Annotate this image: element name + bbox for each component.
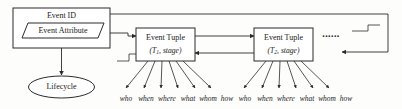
event-tuple-2-sub-tail: , stage): [277, 46, 300, 55]
label-when-1: when: [138, 94, 154, 103]
label-how-2: how: [340, 94, 352, 103]
connector-jog-right: [352, 25, 380, 31]
fan1-arrow-who: [126, 61, 148, 88]
label-when-2: when: [257, 94, 273, 103]
diagram-svg: Event ID Event Attribute Lifecycle Event…: [0, 0, 402, 109]
fan2-arrow-whom: [294, 61, 313, 88]
fan2-arrow-when: [262, 61, 273, 88]
label-who-2: who: [239, 94, 252, 103]
attribute-labels-group-2: who when where what whom how: [239, 94, 352, 103]
fan2-arrow-how: [301, 61, 329, 88]
label-what-1: what: [181, 94, 196, 103]
fan1-arrow-what: [169, 61, 178, 88]
event-id-label: Event ID: [47, 11, 76, 20]
label-where-2: where: [277, 94, 296, 103]
lifecycle-label: Lifecycle: [46, 82, 77, 91]
fan1-arrow-when: [144, 61, 155, 88]
label-where-1: where: [158, 94, 177, 103]
fan2-arrow-what: [287, 61, 296, 88]
event-tuple-2-sublabel: (T2, stage): [268, 46, 300, 56]
event-attribute-label: Event Attribute: [38, 26, 88, 35]
attribute-labels-group-1: who when where what whom how: [120, 94, 233, 103]
event-tuple-1-sub-tail: , stage): [159, 46, 182, 55]
label-what-2: what: [300, 94, 315, 103]
label-whom-1: whom: [199, 94, 217, 103]
fan1-arrow-where: [161, 61, 162, 88]
event-tuple-1-sublabel: (T1, stage): [150, 46, 182, 56]
fan2-arrow-where: [279, 61, 280, 88]
diagram-canvas: Event ID Event Attribute Lifecycle Event…: [0, 0, 402, 109]
fan1-arrow-whom: [176, 61, 195, 88]
label-how-1: how: [221, 94, 233, 103]
connector-attribute-to-tuple1: [110, 33, 136, 36]
continuation-ellipsis: ......: [322, 28, 339, 39]
fan1-arrow-how: [183, 61, 211, 88]
event-tuple-2-label: Event Tuple: [264, 33, 303, 42]
label-whom-2: whom: [318, 94, 336, 103]
fan2-arrow-who: [244, 61, 266, 88]
attribute-fan-group-2: [244, 61, 329, 88]
connector-jog-left: [117, 54, 136, 61]
attribute-fan-group-1: [126, 61, 211, 88]
label-who-1: who: [120, 94, 133, 103]
event-tuple-1-label: Event Tuple: [146, 33, 185, 42]
